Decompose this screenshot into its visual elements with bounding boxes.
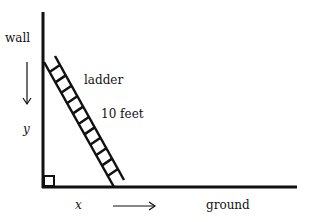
x-variable-label: x xyxy=(75,198,82,212)
right-arrow-icon xyxy=(113,202,155,210)
down-arrow-icon xyxy=(23,62,31,104)
ground-label: ground xyxy=(206,198,250,212)
right-angle-marker xyxy=(44,176,54,186)
y-variable-label: y xyxy=(22,122,30,136)
ladder-diagram: wall ladder 10 feet y x ground xyxy=(0,0,312,222)
wall-label: wall xyxy=(5,31,30,45)
ladder-label: ladder xyxy=(84,73,123,87)
length-label: 10 feet xyxy=(101,107,144,121)
